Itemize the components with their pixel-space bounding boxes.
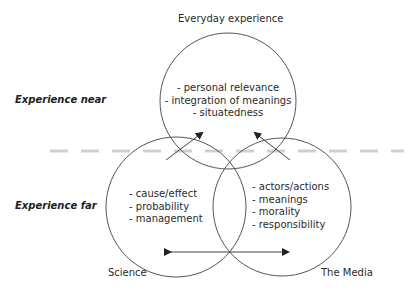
list-item: - personal relevance xyxy=(160,82,296,95)
venn-diagram xyxy=(0,0,417,292)
label-experience-far: Experience far xyxy=(15,200,97,211)
label-science: Science xyxy=(108,267,147,278)
science-items: - cause/effect - probability - managemen… xyxy=(129,188,203,226)
list-item: - morality xyxy=(252,206,329,219)
list-item: - actors/actions xyxy=(252,181,329,194)
media-items: - actors/actions - meanings - morality -… xyxy=(252,181,329,231)
list-item: - management xyxy=(129,213,203,226)
arrow-media-to-everyday xyxy=(255,133,290,160)
list-item: - probability xyxy=(129,201,203,214)
list-item: - responsibility xyxy=(252,219,329,232)
list-item: - meanings xyxy=(252,194,329,207)
label-experience-near: Experience near xyxy=(15,94,106,105)
list-item: - integration of meanings xyxy=(160,95,296,108)
list-item: - cause/effect xyxy=(129,188,203,201)
list-item: - situatedness xyxy=(160,107,296,120)
label-everyday-experience: Everyday experience xyxy=(178,13,283,24)
everyday-items: - personal relevance - integration of me… xyxy=(160,82,296,120)
label-the-media: The Media xyxy=(321,267,373,278)
